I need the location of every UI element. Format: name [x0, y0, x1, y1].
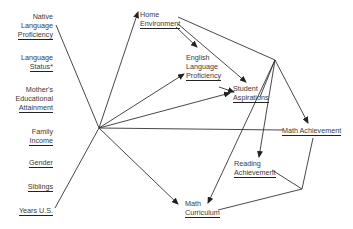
node-reading-achievement: Reading Achievement: [234, 159, 276, 178]
var-family-income: Family Income: [29, 127, 53, 146]
edge-mathach-junction: [302, 138, 313, 189]
edge-hub-mathach: [99, 128, 283, 130]
edge-hub-aspirations: [99, 93, 230, 128]
edge-native-to-hub: [56, 25, 99, 128]
var-years-us: Years U.S.: [19, 206, 53, 216]
edge-mathcurr-junction: [218, 189, 302, 210]
node-english-language-proficiency: English Language Proficiency: [186, 53, 221, 81]
var-mothers-educational-attainment: Mother's Educational Attainment: [15, 85, 53, 113]
var-gender: Gender: [29, 158, 53, 168]
edge-reading-junction: [272, 170, 302, 189]
var-siblings: Siblings: [28, 182, 53, 192]
edge-righthub-mathcurr: [208, 60, 275, 203]
node-home-environment: Home Environment: [140, 10, 180, 29]
node-student-aspirations: Student Aspirations: [233, 84, 269, 103]
edge-years-to-hub: [55, 128, 99, 208]
var-language-status: Language Status*: [21, 53, 53, 72]
edge-righthub-reading: [259, 60, 275, 157]
edge-righthub-mathach: [275, 60, 308, 123]
node-math-achievement: Math Achievement: [282, 126, 341, 136]
edge-hub-mathcurr: [99, 128, 178, 204]
edge-hub-english: [99, 74, 184, 128]
edge-hub-home: [99, 12, 138, 128]
var-native-language-proficiency: Native Language Proficiency: [18, 12, 53, 40]
node-math-curriculum: Math Curriculum: [185, 199, 220, 218]
edge-english-aspirations: [219, 87, 234, 92]
